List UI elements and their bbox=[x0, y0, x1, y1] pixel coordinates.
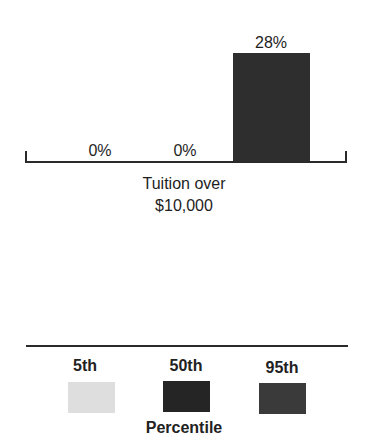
legend-title: Percentile bbox=[84, 419, 284, 437]
bar-chart: 0% 0% 28% Tuition over $10,000 5th 50th … bbox=[0, 0, 368, 440]
bar-label-5th: 0% bbox=[60, 142, 140, 160]
legend-swatch-95th bbox=[259, 383, 306, 414]
category-label: Tuition over $10,000 bbox=[84, 173, 284, 217]
legend-label-95th: 95th bbox=[252, 359, 312, 377]
x-axis-line bbox=[25, 161, 347, 163]
x-axis-left-tick bbox=[25, 151, 27, 163]
bar-95th bbox=[233, 53, 310, 163]
x-axis-right-tick bbox=[345, 151, 347, 163]
legend-label-50th: 50th bbox=[156, 357, 216, 375]
legend-divider bbox=[26, 345, 348, 347]
legend-swatch-5th bbox=[68, 382, 115, 413]
bar-label-50th: 0% bbox=[145, 142, 225, 160]
legend-swatch-50th bbox=[163, 381, 210, 412]
category-label-line-2: $10,000 bbox=[84, 195, 284, 217]
legend-label-5th: 5th bbox=[55, 357, 115, 375]
category-label-line-1: Tuition over bbox=[84, 173, 284, 195]
bar-label-95th: 28% bbox=[231, 34, 311, 52]
